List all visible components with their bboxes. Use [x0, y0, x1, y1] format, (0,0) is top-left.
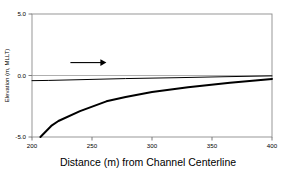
x-tick-label-200: 200: [27, 142, 38, 149]
y-axis-title: Elevation (m, MLLT): [4, 49, 10, 103]
y-tick-label-5: 5.0: [17, 10, 26, 17]
x-tick-label-300: 300: [147, 142, 158, 149]
x-tick-label-250: 250: [87, 142, 98, 149]
y-tick-label-0: 0.0: [17, 72, 26, 79]
chart-figure: 5.0 0.0 -5.0 200 250 300 350 400 Elevati…: [0, 0, 284, 174]
x-axis-title: Distance (m) from Channel Centerline: [60, 156, 236, 168]
y-tick-label-neg5: -5.0: [15, 133, 26, 140]
chart-canvas: 5.0 0.0 -5.0 200 250 300 350 400 Elevati…: [0, 0, 284, 174]
x-tick-label-350: 350: [207, 142, 218, 149]
x-tick-label-400: 400: [267, 142, 278, 149]
